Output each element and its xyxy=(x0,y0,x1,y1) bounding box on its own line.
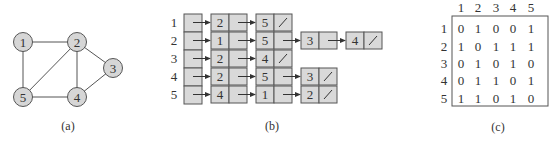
node-value: 1 xyxy=(217,33,224,48)
list-node: 2 xyxy=(211,14,255,31)
node-label: 2 xyxy=(74,35,81,50)
matrix-cell: 1 xyxy=(528,21,535,36)
matrix-cell: 0 xyxy=(458,73,465,88)
adjacency-matrix: 12345123450100110111010100110111010 (c) xyxy=(441,0,548,134)
list-node: 2 xyxy=(301,86,337,103)
matrix-col-header: 5 xyxy=(528,0,535,15)
edge-2-5 xyxy=(23,42,77,97)
graph-node-4: 4 xyxy=(68,88,87,107)
matrix-col-header: 3 xyxy=(493,0,500,15)
list-node: 1 xyxy=(256,86,300,103)
matrix-cell: 0 xyxy=(493,21,500,36)
node-label: 4 xyxy=(74,90,81,105)
matrix-cell: 1 xyxy=(458,91,465,106)
list-row-5: 5412 xyxy=(171,86,337,104)
matrix-cell: 1 xyxy=(475,73,482,88)
matrix-cell: 0 xyxy=(493,91,500,106)
caption-a: (a) xyxy=(61,119,74,133)
list-node: 4 xyxy=(256,50,292,67)
row-label: 3 xyxy=(171,51,178,66)
matrix-cell: 1 xyxy=(475,91,482,106)
list-node: 1 xyxy=(211,32,255,49)
node-value: 4 xyxy=(352,33,359,48)
node-label: 3 xyxy=(110,61,117,76)
list-node: 4 xyxy=(346,32,382,49)
matrix-cell: 0 xyxy=(458,56,465,71)
node-label: 5 xyxy=(20,90,27,105)
node-value: 4 xyxy=(262,51,269,66)
row-label: 4 xyxy=(171,69,178,84)
undirected-graph: 12345 (a) xyxy=(14,33,123,134)
graph-node-5: 5 xyxy=(14,88,33,107)
graph-node-2: 2 xyxy=(68,33,87,52)
list-node: 4 xyxy=(211,86,255,103)
node-value: 5 xyxy=(262,15,269,30)
matrix-cell: 0 xyxy=(510,21,517,36)
graph-representation-figure: 12345 (a) 1252153432442535412 (b) 123451… xyxy=(0,0,550,141)
matrix-cell: 1 xyxy=(493,39,500,54)
matrix-cell: 0 xyxy=(458,21,465,36)
node-value: 2 xyxy=(307,87,314,102)
list-row-4: 4253 xyxy=(171,68,337,86)
node-value: 2 xyxy=(217,15,224,30)
matrix-cell: 0 xyxy=(475,39,482,54)
list-node: 3 xyxy=(301,32,345,49)
row-label: 1 xyxy=(171,15,178,30)
list-row-1: 125 xyxy=(171,14,292,32)
matrix-cell: 1 xyxy=(510,56,517,71)
list-node: 5 xyxy=(256,68,300,85)
matrix-cell: 1 xyxy=(475,56,482,71)
matrix-row-header: 1 xyxy=(441,21,448,36)
matrix-col-header: 2 xyxy=(475,0,482,15)
node-value: 5 xyxy=(262,69,269,84)
caption-c: (c) xyxy=(491,120,504,134)
matrix-cell: 1 xyxy=(493,73,500,88)
matrix-row-header: 5 xyxy=(441,91,448,106)
matrix-cell: 0 xyxy=(493,56,500,71)
list-node: 2 xyxy=(211,50,255,67)
node-value: 2 xyxy=(217,51,224,66)
adjacency-list-rows: 1252153432442535412 xyxy=(171,14,382,104)
node-value: 2 xyxy=(217,69,224,84)
row-label: 5 xyxy=(171,87,178,102)
matrix-cell: 1 xyxy=(528,39,535,54)
node-label: 1 xyxy=(20,35,27,50)
list-node: 2 xyxy=(211,68,255,85)
node-value: 1 xyxy=(262,87,269,102)
matrix-row-header: 2 xyxy=(441,39,448,54)
matrix-cell: 1 xyxy=(510,39,517,54)
matrix-cell: 1 xyxy=(510,91,517,106)
graph-edges xyxy=(23,42,113,97)
node-value: 5 xyxy=(262,33,269,48)
list-node: 5 xyxy=(256,32,300,49)
list-node: 3 xyxy=(301,68,337,85)
list-node: 5 xyxy=(256,14,292,31)
matrix-row-header: 3 xyxy=(441,56,448,71)
graph-nodes: 12345 xyxy=(14,33,123,107)
matrix-cell: 0 xyxy=(528,91,535,106)
graph-node-3: 3 xyxy=(104,59,123,78)
matrix-cell: 0 xyxy=(510,73,517,88)
row-label: 2 xyxy=(171,33,178,48)
matrix-cell: 0 xyxy=(528,56,535,71)
node-value: 3 xyxy=(307,69,314,84)
list-row-3: 324 xyxy=(171,50,292,68)
caption-b: (b) xyxy=(265,119,279,133)
node-value: 4 xyxy=(217,87,224,102)
matrix-row-header: 4 xyxy=(441,73,448,88)
matrix-cell: 1 xyxy=(528,73,535,88)
graph-node-1: 1 xyxy=(14,33,33,52)
matrix-col-header: 4 xyxy=(510,0,517,15)
matrix-cell: 1 xyxy=(458,39,465,54)
list-row-2: 21534 xyxy=(171,32,382,50)
matrix-cell: 1 xyxy=(475,21,482,36)
matrix-col-header: 1 xyxy=(458,0,465,15)
adjacency-list: 1252153432442535412 (b) xyxy=(171,14,382,133)
node-value: 3 xyxy=(307,33,314,48)
